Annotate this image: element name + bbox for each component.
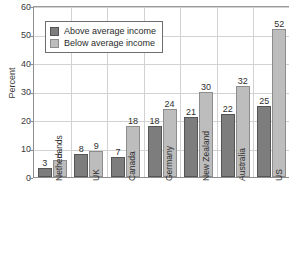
- y-tick-label: 0: [5, 174, 31, 183]
- y-tick-label: 40: [5, 60, 31, 69]
- legend-swatch-icon-below: [50, 39, 59, 48]
- y-tick-label: 60: [5, 3, 31, 12]
- legend-label-below: Below average income: [64, 39, 155, 48]
- bar-value-label: 32: [238, 77, 248, 86]
- bar-chart: Percent 0102030405060 368971818242130223…: [0, 0, 302, 255]
- bar-value-label: 25: [259, 97, 269, 106]
- gridline-horizontal: [34, 93, 289, 94]
- gridline-horizontal: [34, 150, 289, 151]
- bar-value-label: 8: [79, 145, 84, 154]
- bar: 25: [257, 106, 271, 177]
- gridline-vertical: [217, 7, 218, 177]
- bar-value-label: 52: [274, 20, 284, 29]
- y-tick-label: 10: [5, 145, 31, 154]
- bar-value-label: 30: [201, 83, 211, 92]
- x-tick-label: Germany: [165, 146, 174, 181]
- gridline-vertical: [253, 7, 254, 177]
- bar-value-label: 18: [128, 117, 138, 126]
- legend-label-above: Above average income: [64, 27, 156, 36]
- y-tick-label: 30: [5, 88, 31, 97]
- gridline-horizontal: [34, 7, 289, 8]
- gridline-horizontal: [34, 121, 289, 122]
- legend-item-below: Below average income: [50, 37, 156, 49]
- bar-value-label: 18: [149, 117, 159, 126]
- bar-value-label: 3: [42, 159, 47, 168]
- bar-value-label: 9: [94, 142, 99, 151]
- bar-value-label: 21: [186, 108, 196, 117]
- chart-legend: Above average income Below average incom…: [45, 21, 163, 53]
- x-tick-label: US: [275, 169, 284, 181]
- x-tick-label: Netherlands: [55, 135, 64, 181]
- gridline-horizontal: [34, 64, 289, 65]
- x-tick-label: Canada: [128, 151, 137, 181]
- bar-value-label: 24: [164, 100, 174, 109]
- legend-item-above: Above average income: [50, 25, 156, 37]
- x-tick-label: New Zealand: [202, 131, 211, 181]
- x-tick-label: Australia: [238, 148, 247, 181]
- bar: 52: [272, 29, 286, 177]
- y-tick-label: 20: [5, 117, 31, 126]
- bar: 18: [148, 126, 162, 177]
- bar: 21: [184, 117, 198, 177]
- bar: 8: [74, 154, 88, 177]
- legend-swatch-icon-above: [50, 27, 59, 36]
- bar: 22: [221, 114, 235, 177]
- bar: 7: [111, 157, 125, 177]
- bar-value-label: 22: [223, 105, 233, 114]
- x-tick-label: UK: [92, 169, 101, 181]
- chart-title-cutoff: [0, 0, 302, 2]
- y-tick-mark: [29, 178, 33, 179]
- y-tick-label: 50: [5, 31, 31, 40]
- gridline-vertical: [180, 7, 181, 177]
- bar: 3: [38, 168, 52, 177]
- bar-value-label: 7: [115, 148, 120, 157]
